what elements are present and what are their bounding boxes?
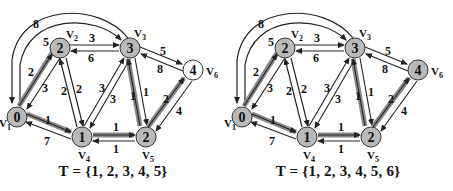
weight-v3-v1: 8 bbox=[33, 17, 39, 31]
weight-v3-v4: 3 bbox=[110, 92, 116, 106]
graph-diagram-left: 8 5 2 3 1 7 3 6 2 2 3 3 1 1 1 1 5 8 2 4 … bbox=[0, 0, 226, 160]
weight-v2-v4: 2 bbox=[301, 82, 307, 96]
node-v6-distance: 4 bbox=[190, 63, 197, 78]
weight-v5-v4: 1 bbox=[338, 142, 344, 156]
weight-v4-v1: 7 bbox=[44, 134, 50, 148]
weight-v2-v4: 2 bbox=[76, 82, 82, 96]
weight-v3-v6: 5 bbox=[385, 44, 391, 58]
weight-v3-v2: 6 bbox=[88, 51, 94, 65]
node-v6: 4 V6 bbox=[183, 60, 218, 80]
node-v4-distance: 1 bbox=[79, 130, 86, 145]
edge-v1-v2 bbox=[244, 54, 277, 106]
node-v2: 2 V2 bbox=[275, 28, 303, 58]
weight-v1-v2: 2 bbox=[253, 65, 259, 79]
weight-v6-v5: 4 bbox=[401, 104, 407, 118]
node-v5-label: V5 bbox=[367, 149, 379, 164]
tree-set-caption: T = {1, 2, 3, 4, 5} bbox=[0, 163, 226, 180]
weight-v2-v3: 3 bbox=[314, 31, 320, 45]
weight-v3-v2: 6 bbox=[313, 51, 319, 65]
graph-panel-right: 8 5 2 3 1 7 3 6 2 2 3 3 1 1 1 1 5 8 2 4 … bbox=[225, 0, 451, 191]
weight-v4-v2: 2 bbox=[61, 84, 67, 98]
weight-v3-v5: 1 bbox=[143, 85, 149, 99]
node-v5: 2 V5 bbox=[361, 127, 381, 164]
node-v2-distance: 2 bbox=[282, 41, 289, 56]
node-v2: 2 V2 bbox=[50, 28, 78, 58]
weight-v2-v1: 3 bbox=[267, 81, 273, 95]
tree-set-caption: T = {1, 2, 3, 4, 5, 6} bbox=[225, 163, 451, 180]
weight-v1-v3: 5 bbox=[43, 35, 49, 49]
weight-v4-v1: 7 bbox=[269, 134, 275, 148]
graph-diagram-right: 8 5 2 3 1 7 3 6 2 2 3 3 1 1 1 1 5 8 2 4 … bbox=[225, 0, 451, 160]
node-v5-label: V5 bbox=[142, 149, 154, 164]
node-v5: 2 V5 bbox=[136, 127, 156, 164]
node-v2-label: V2 bbox=[66, 28, 78, 43]
weight-v5-v4: 1 bbox=[113, 142, 119, 156]
weight-v3-v5: 1 bbox=[368, 85, 374, 99]
weight-v4-v3: 3 bbox=[99, 81, 105, 95]
weight-v2-v1: 3 bbox=[42, 81, 48, 95]
weight-v6-v5: 4 bbox=[176, 104, 182, 118]
weight-v1-v2: 2 bbox=[28, 65, 34, 79]
node-v4-distance: 1 bbox=[304, 130, 311, 145]
weight-v6-v3: 8 bbox=[157, 62, 163, 76]
weight-v1-v3: 5 bbox=[268, 35, 274, 49]
node-v6-label: V6 bbox=[431, 65, 443, 80]
node-v6-label: V6 bbox=[206, 65, 218, 80]
weight-v3-v1: 8 bbox=[258, 17, 264, 31]
weight-v4-v2: 2 bbox=[286, 84, 292, 98]
weight-v5-v3: 1 bbox=[130, 89, 136, 103]
node-v4: 1 V4 bbox=[297, 127, 317, 164]
node-v1-distance: 0 bbox=[239, 110, 246, 125]
node-v6: 4 V6 bbox=[408, 60, 443, 80]
weight-v3-v4: 3 bbox=[335, 92, 341, 106]
node-v1: 0 V1 bbox=[0, 107, 27, 132]
node-v4-label: V4 bbox=[303, 149, 315, 164]
node-v4-label: V4 bbox=[78, 149, 90, 164]
node-v5-distance: 2 bbox=[368, 130, 375, 145]
weight-v2-v3: 3 bbox=[89, 31, 95, 45]
node-v2-distance: 2 bbox=[57, 41, 64, 56]
weight-v5-v6: 2 bbox=[388, 92, 394, 106]
node-v3-distance: 3 bbox=[352, 41, 359, 56]
weight-v1-v4: 1 bbox=[45, 113, 51, 127]
weight-v4-v5: 1 bbox=[113, 120, 119, 134]
weight-v5-v3: 1 bbox=[355, 89, 361, 103]
node-v3: 3 V3 bbox=[345, 27, 371, 58]
weight-v4-v5: 1 bbox=[338, 120, 344, 134]
node-v6-distance: 4 bbox=[415, 63, 422, 78]
weight-v6-v3: 8 bbox=[382, 62, 388, 76]
node-v1-distance: 0 bbox=[14, 110, 21, 125]
node-v2-label: V2 bbox=[291, 28, 303, 43]
node-v3: 3 V3 bbox=[120, 27, 146, 58]
node-v3-distance: 3 bbox=[127, 41, 134, 56]
edge-v1-v2 bbox=[19, 54, 52, 106]
weight-v1-v4: 1 bbox=[270, 113, 276, 127]
weight-v3-v6: 5 bbox=[160, 44, 166, 58]
weight-v4-v3: 3 bbox=[324, 81, 330, 95]
node-v1: 0 V1 bbox=[224, 107, 252, 132]
graph-panel-left: 8 5 2 3 1 7 3 6 2 2 3 3 1 1 1 1 5 8 2 4 … bbox=[0, 0, 226, 191]
node-v5-distance: 2 bbox=[143, 130, 150, 145]
node-v4: 1 V4 bbox=[72, 127, 92, 164]
weight-v5-v6: 2 bbox=[163, 92, 169, 106]
